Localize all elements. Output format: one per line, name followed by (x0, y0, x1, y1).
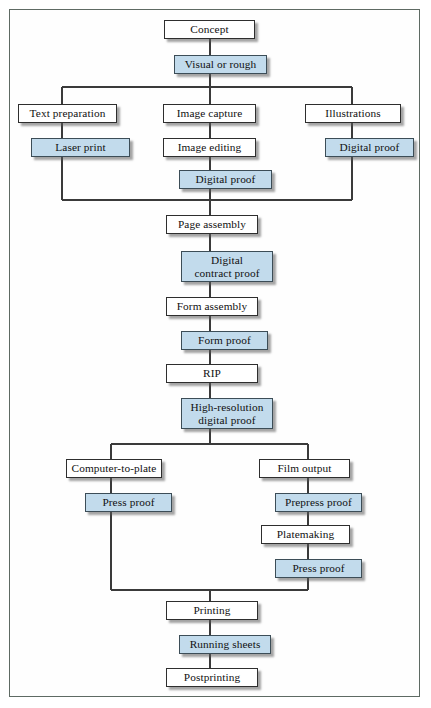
node-label: Platemaking (277, 528, 335, 540)
node-label: Illustrations (325, 107, 380, 119)
node-form-assembly[interactable]: Form assembly (166, 297, 258, 316)
node-page-assembly[interactable]: Page assembly (166, 215, 258, 234)
node-label: Image capture (177, 107, 243, 119)
node-label: Computer-to-plate (72, 462, 157, 474)
node-label: Press proof (292, 562, 344, 574)
node-label: Prepress proof (285, 496, 352, 508)
node-laser-print[interactable]: Laser print (31, 138, 130, 157)
node-printing[interactable]: Printing (166, 601, 258, 620)
node-digital-proof-r[interactable]: Digital proof (325, 138, 414, 157)
node-image-capture[interactable]: Image capture (163, 104, 256, 123)
node-label: Running sheets (190, 638, 261, 650)
node-concept[interactable]: Concept (164, 20, 255, 39)
node-label: RIP (203, 367, 221, 379)
node-label: Laser print (55, 141, 105, 153)
node-ctp[interactable]: Computer-to-plate (66, 459, 162, 478)
node-label: Form assembly (177, 300, 248, 312)
node-label: Digital proof (196, 173, 256, 185)
node-contract-proof[interactable]: Digital contract proof (181, 251, 273, 282)
node-running-sheets[interactable]: Running sheets (179, 635, 271, 654)
node-label: Press proof (102, 496, 154, 508)
node-label: Digital contract proof (194, 254, 259, 279)
node-platemaking[interactable]: Platemaking (261, 525, 350, 544)
node-rip[interactable]: RIP (166, 364, 258, 383)
node-label: Postprinting (184, 671, 240, 683)
node-label: Page assembly (178, 218, 246, 230)
node-prepress-proof[interactable]: Prepress proof (275, 493, 362, 512)
node-film-output[interactable]: Film output (259, 459, 350, 478)
node-label: Film output (277, 462, 331, 474)
flowchart-page: ConceptVisual or roughText preparationIm… (0, 0, 431, 708)
node-label: Image editing (178, 141, 242, 153)
node-label: High-resolution digital proof (190, 401, 263, 426)
node-digital-proof-c[interactable]: Digital proof (179, 170, 272, 189)
node-label: Digital proof (340, 141, 400, 153)
node-visual[interactable]: Visual or rough (174, 55, 267, 74)
node-hires-proof[interactable]: High-resolution digital proof (181, 398, 273, 429)
node-image-editing[interactable]: Image editing (163, 138, 256, 157)
node-form-proof[interactable]: Form proof (181, 331, 268, 350)
node-postprinting[interactable]: Postprinting (166, 668, 258, 687)
node-label: Text preparation (30, 107, 106, 119)
node-label: Printing (193, 604, 230, 616)
node-label: Concept (190, 23, 228, 35)
node-press-proof-r[interactable]: Press proof (275, 559, 362, 578)
node-text-prep[interactable]: Text preparation (18, 104, 117, 123)
node-label: Form proof (198, 334, 251, 346)
node-illustrations[interactable]: Illustrations (305, 104, 401, 123)
node-press-proof-l[interactable]: Press proof (85, 493, 172, 512)
node-label: Visual or rough (185, 58, 257, 70)
